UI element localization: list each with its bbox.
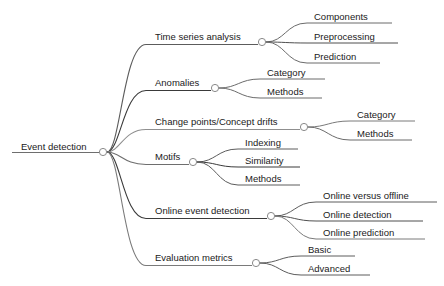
leaf-connector-time-series-analysis-components [266,23,307,42]
leaf-connector-evaluation-metrics-advanced [260,263,301,275]
branch-node-circle-change-points-concept-drifts[interactable] [300,123,307,130]
branch-curve-layer [107,45,146,266]
leaf-label-time-series-analysis-prediction: Prediction [314,51,356,62]
leaf-connector-evaluation-metrics-basic [260,256,301,263]
leaf-connector-change-points-concept-drifts-category [308,121,350,127]
leaf-label-online-event-detection-online-detection: Online detection [323,209,392,220]
root-label: Event detection [21,141,87,152]
branch-node-circle-motifs[interactable] [189,158,196,165]
leaf-label-online-event-detection-online-versus-offline: Online versus offline [323,190,409,201]
branch-connector-change-points-concept-drifts [107,130,146,153]
leaf-connector-change-points-concept-drifts-methods [308,127,350,140]
branch-label-change-points-concept-drifts: Change points/Concept drifts [155,116,278,127]
branch-node-circle-time-series-analysis[interactable] [258,38,265,45]
branch-connector-online-event-detection [107,152,146,219]
branch-label-evaluation-metrics: Evaluation metrics [155,252,233,263]
root-node-circle[interactable] [99,148,106,155]
leaf-connector-online-event-detection-online-prediction [275,216,316,239]
branch-node-circle-anomalies[interactable] [211,84,218,91]
branch-connector-time-series-analysis [107,45,146,153]
leaf-label-anomalies-methods: Methods [267,86,304,97]
leaf-label-motifs-indexing: Indexing [245,137,281,148]
leaf-label-time-series-analysis-preprocessing: Preprocessing [314,31,375,42]
branch-label-motifs: Motifs [155,151,181,162]
branch-label-time-series-analysis: Time series analysis [155,31,241,42]
leaf-connector-online-event-detection-online-versus-offline [275,202,316,216]
branch-label-online-event-detection: Online event detection [155,205,250,216]
leaf-connector-motifs-methods [197,162,238,185]
leaf-label-change-points-concept-drifts-category: Category [357,109,396,120]
branch-node-circle-evaluation-metrics[interactable] [252,259,259,266]
branch-connector-motifs [107,152,146,165]
branch-connector-evaluation-metrics [107,152,146,266]
leaf-label-evaluation-metrics-basic: Basic [308,244,331,255]
leaf-label-motifs-methods: Methods [245,173,282,184]
leaf-label-anomalies-category: Category [267,67,306,78]
leaf-connector-motifs-indexing [197,149,238,162]
leaf-label-evaluation-metrics-advanced: Advanced [308,263,350,274]
leaf-connector-anomalies-category [219,79,260,88]
branch-node-circle-online-event-detection[interactable] [267,212,274,219]
leaf-connector-time-series-analysis-prediction [266,42,307,63]
mindmap-canvas: Event detectionTime series analysisCompo… [0,0,444,286]
leaf-connector-anomalies-methods [219,88,260,98]
label-layer: Event detectionTime series analysisCompo… [21,11,409,274]
branch-label-anomalies: Anomalies [155,77,200,88]
leaf-label-motifs-similarity: Similarity [245,155,284,166]
leaf-label-change-points-concept-drifts-methods: Methods [357,128,394,139]
leaf-label-online-event-detection-online-prediction: Online prediction [323,227,394,238]
leaf-label-time-series-analysis-components: Components [314,11,368,22]
